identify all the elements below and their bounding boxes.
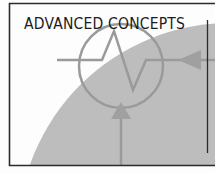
gray-quarter-circle	[18, 23, 215, 174]
cover-title: ADVANCED CONCEPTS	[24, 16, 185, 32]
book-cover: ADVANCED CONCEPTS	[0, 0, 215, 174]
